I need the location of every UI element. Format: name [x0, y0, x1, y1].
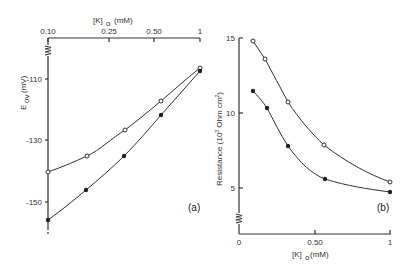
panel-a-x-tick-label: 0.50: [146, 27, 162, 36]
axis-break-icon: [236, 214, 242, 223]
panel-a-y-tick-label: -150: [26, 198, 43, 207]
filled-circle-marker: [46, 218, 50, 222]
panel-b-x-label-main: [K]: [292, 250, 302, 259]
open-circle-marker: [263, 57, 267, 61]
filled-circle-marker: [286, 144, 290, 148]
panel-b-y-label-text: Resistance (10: [215, 132, 224, 186]
panel-a-y-label-unit: (mV): [19, 75, 28, 93]
panel-b-filled-curve: [253, 91, 390, 192]
panel-b-y-label-rest: Ohm cm: [215, 97, 224, 130]
filled-circle-marker: [265, 106, 269, 110]
panel-b-x-tick-label: 0.50: [307, 238, 323, 247]
open-circle-marker: [159, 99, 163, 103]
filled-circle-marker: [198, 69, 202, 73]
panel-b-y-tick-label: 10: [226, 109, 235, 118]
panel-b: 15 10 5 Resistance (103 Ohm cm2) 0 0.50 …: [214, 34, 393, 262]
panel-a-y-tick-label: -130: [26, 136, 43, 145]
panel-a: 0.10 0.25 0.50 1 [K] o (mM) -110 -130 -1…: [19, 16, 203, 234]
panel-b-x-label-unit: (mM): [310, 250, 329, 259]
panel-b-filled-markers: [251, 89, 392, 194]
panel-b-open-curve: [253, 41, 390, 182]
filled-circle-marker: [323, 177, 327, 181]
panel-a-x-label-unit: (mM): [114, 16, 133, 25]
filled-circle-marker: [84, 188, 88, 192]
panel-b-y-label: Resistance (103 Ohm cm2): [214, 92, 224, 186]
panel-b-x-tick-label: 1: [388, 238, 393, 247]
panel-b-y-tick-label: 5: [231, 184, 236, 193]
panel-b-y-tick-label: 15: [226, 34, 235, 43]
panel-a-label: (a): [188, 202, 200, 213]
open-circle-marker: [286, 100, 290, 104]
open-circle-marker: [322, 143, 326, 147]
panel-a-x-label-main: [K]: [93, 16, 103, 25]
filled-circle-marker: [251, 89, 255, 93]
open-circle-marker: [388, 180, 392, 184]
panel-a-filled-markers: [46, 69, 202, 222]
panel-a-x-tick-label: 0.10: [40, 27, 56, 36]
filled-circle-marker: [159, 113, 163, 117]
open-circle-marker: [123, 128, 127, 132]
axis-break-icon: [45, 46, 51, 55]
panel-a-x-label-sub: o: [106, 19, 111, 28]
filled-circle-marker: [388, 190, 392, 194]
panel-a-y-label-main: E: [19, 105, 28, 110]
panel-a-y-tick-label: -110: [27, 75, 43, 84]
panel-b-open-markers: [251, 39, 392, 184]
figure: 0.10 0.25 0.50 1 [K] o (mM) -110 -130 -1…: [0, 0, 410, 271]
panel-a-x-tick-label: 0.25: [101, 27, 117, 36]
panel-a-y-label-sub: ov: [22, 95, 31, 103]
panel-b-label: (b): [377, 202, 389, 213]
panel-b-y-label-end: ): [215, 92, 224, 95]
filled-circle-marker: [122, 154, 126, 158]
svg-text:Resistance (103 Ohm cm2): Resistance (103 Ohm cm2): [214, 92, 224, 186]
open-circle-marker: [85, 154, 89, 158]
open-circle-marker: [251, 39, 255, 43]
open-circle-marker: [46, 170, 50, 174]
panel-a-x-tick-label: 1: [198, 27, 203, 36]
panel-a-filled-curve: [48, 71, 200, 220]
panel-b-x-tick-label: 0: [237, 238, 242, 247]
